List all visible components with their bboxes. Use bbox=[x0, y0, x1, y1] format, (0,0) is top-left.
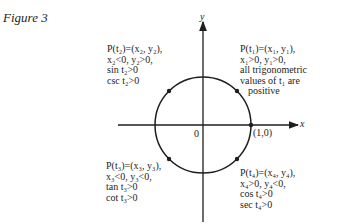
quadrant-4-label: P(t₄)=(x₄, y₄), x₄>0, y₄<0, cos t₄>0 sec… bbox=[240, 168, 295, 210]
point-t4 bbox=[235, 157, 239, 161]
y-axis-label: y bbox=[200, 11, 204, 22]
quadrant-3-label: P(t₃)=(x₃, y₃), x₃<0, y₃<0, tan t₃>0 cot… bbox=[106, 161, 161, 203]
quadrant-1-label: P(t₁)=(x₁, y₁), x₁>0, y₁>0, all trigonom… bbox=[240, 44, 307, 97]
x-axis-label: x bbox=[300, 118, 304, 129]
quadrant-2-label: P(t₂)=(x₂, y₂), x₂<0, y₂>0, sin t₂>0 csc… bbox=[107, 44, 162, 86]
point-1-0-label: (1,0) bbox=[253, 127, 272, 138]
origin-label: 0 bbox=[194, 128, 199, 139]
point-t2 bbox=[167, 89, 171, 93]
point-t3 bbox=[167, 157, 171, 161]
point-t1 bbox=[235, 89, 239, 93]
